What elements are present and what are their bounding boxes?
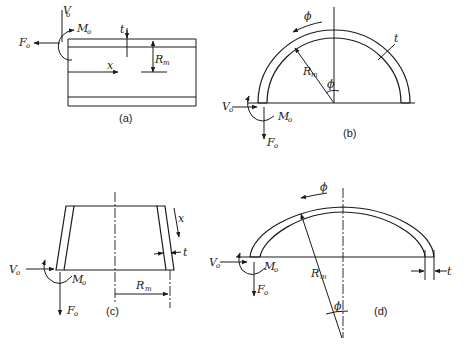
moment-arrow-b [248,96,274,121]
label-shear-sub-a: o [66,11,70,19]
panel-b-hemisphere: ϕ t R m ϕ V o M o F o (b) [222,7,415,150]
label-force-sub-d: o [264,289,268,297]
label-thickness-d: t [447,265,452,278]
cone-wall-left [56,206,74,270]
caption-d: (d) [374,305,387,317]
label-axis-a: x [107,59,114,72]
panel-a-cylinder: V o M o F o t R m x (a) [18,4,196,124]
caption-b: (b) [343,127,356,139]
label-radius-d: R [310,267,319,280]
label-shear-sub-c: o [16,269,20,277]
label-radius-a: R [154,53,163,66]
label-moment-sub-b: o [288,116,292,124]
caption-c: (c) [106,305,119,317]
label-force-sub-a: o [26,42,30,50]
angle-arrow-b [293,22,322,32]
label-radius-sub-a: m [163,59,170,67]
label-radius-sub-b: m [311,71,318,79]
label-radius-c: R [135,279,144,292]
label-moment-sub-a: o [87,28,91,36]
caption-a: (a) [119,112,132,124]
label-radius-b: R [302,65,311,78]
label-angle-center-b: ϕ [327,78,335,91]
label-force-sub-c: o [74,310,78,318]
thickness-mark-b [378,44,395,60]
panel-d-shallow-head: ϕ R m ϕ t V o M o F o (d) [209,181,452,338]
label-shear-sub-d: o [216,262,220,270]
panel-c-cone: x t R m V o M o F o (c) [9,192,188,318]
moment-arrow-c [44,260,72,284]
thickness-mark-c [154,253,163,254]
label-radius-sub-c: m [145,285,152,293]
shell-loading-diagram: V o M o F o t R m x (a) ϕ t R m [0,0,466,349]
cone-wall-right [157,206,174,270]
label-axis-c: x [178,212,185,225]
label-thickness-c: t [183,246,188,259]
label-thickness-b: t [394,32,399,45]
label-moment-sub-c: o [82,279,86,287]
moment-arrow-a [58,30,74,60]
label-force-sub-b: o [274,142,278,150]
label-angle-center-d: ϕ [334,300,342,313]
label-thickness-a: t [120,23,125,36]
label-angle-top-d: ϕ [320,181,328,194]
label-shear-sub-b: o [229,106,233,114]
label-angle-top-b: ϕ [304,10,312,23]
moment-arrow-d [239,253,265,275]
label-moment-sub-d: o [274,266,278,274]
label-radius-sub-d: m [320,273,327,281]
